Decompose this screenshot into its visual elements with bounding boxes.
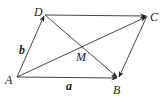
point-label-B: B [113,83,121,97]
edge-AB [17,77,117,78]
point-label-D: D [33,5,43,19]
point-label-A: A [4,73,13,87]
edge-CB [119,16,147,77]
point-label-C: C [150,10,159,24]
vector-label-b: b [19,43,25,57]
point-label-M: M [75,50,87,64]
parallelogram-diagram: A B C D M a b [0,0,166,97]
vector-label-a: a [66,79,72,93]
edge-DC [45,15,146,16]
diagonal-DB [45,15,117,77]
